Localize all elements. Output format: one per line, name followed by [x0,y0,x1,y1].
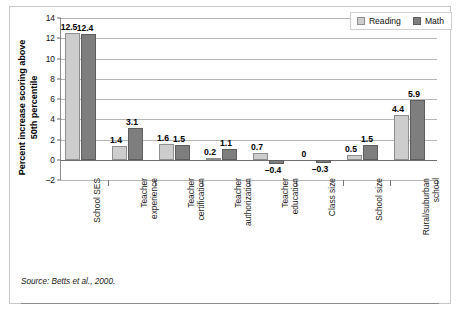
bar-math[interactable] [175,145,190,160]
x-axis-label: Teacherexperience [139,178,159,268]
bar-reading[interactable] [394,115,409,160]
legend-label-reading: Reading [369,16,401,26]
bottom-rule-divider [21,303,439,304]
y-tick-label: 2 [50,135,55,145]
bar-reading[interactable] [347,155,362,160]
y-tick-label: 12 [46,33,55,43]
bar-series-container: 12.512.41.43.11.61.50.21.10.7–0.40–0.30.… [61,18,437,180]
x-axis-label: Teachereducation [280,178,300,268]
bar-math[interactable] [222,149,237,160]
bar-value-label: 1.5 [354,134,380,144]
bar-math[interactable] [128,128,143,159]
bar-math[interactable] [81,34,96,160]
bar-group: 4.45.9 [390,18,437,180]
y-tick-label: 14 [46,13,55,23]
x-axis-label-line1: Teacher [186,178,196,208]
bar-group: 0.7–0.4 [249,18,296,180]
x-axis-label-line1: Teacher [280,178,290,208]
y-axis-title-line2: 50th percentile [28,18,40,198]
bar-math[interactable] [363,145,378,160]
bar-reading[interactable] [65,33,80,160]
y-tick-label: 4 [50,114,55,124]
y-tick-label: 8 [50,74,55,84]
bar-value-label: 5.9 [401,89,427,99]
bar-math[interactable] [316,160,331,163]
bar-group: 12.512.4 [61,18,108,180]
bar-group: 0.51.5 [343,18,390,180]
x-axis-label: Teacherauthorization [233,178,253,268]
plot-area: 14121086420–2 12.512.41.43.11.61.50.21.1… [60,18,437,180]
bar-value-label: 0.2 [197,147,223,157]
x-axis-label: School SES [92,178,102,268]
x-axis-label-line1: School SES [92,178,102,223]
bar-value-label: 1.1 [213,138,239,148]
bar-math[interactable] [269,160,284,164]
figure: Percent increase scoring above 50th perc… [0,0,460,316]
category-tick [108,180,109,186]
x-axis-label-line1: Rural/suburban [421,178,431,235]
bar-value-label: 0.7 [244,142,270,152]
x-axis-category-labels: School SESTeacherexperienceTeachercertif… [60,190,436,268]
bar-value-label: 1.5 [166,134,192,144]
x-axis-label-line1: Class size [327,178,337,216]
bar-reading[interactable] [112,146,127,160]
x-axis-label-line2: experience [149,178,159,268]
bar-group: 1.61.5 [155,18,202,180]
x-axis-label: Class size [327,178,337,268]
x-axis-label-line2: school [431,178,441,268]
x-axis-label: Teachercertification [186,178,206,268]
legend-item-math[interactable]: Math [413,16,444,26]
category-tick [390,180,391,186]
legend: Reading Math [350,12,452,30]
bar-value-label: –0.3 [307,164,333,174]
x-axis-label-line2: authorization [243,178,253,268]
y-axis-title: Percent increase scoring above 50th perc… [17,18,40,198]
y-axis-title-line1: Percent increase scoring above [17,40,27,175]
category-tick [343,180,344,186]
bar-value-label: 4.4 [385,104,411,114]
y-tick-label: 6 [50,94,55,104]
bar-value-label: 1.4 [103,135,129,145]
bar-reading[interactable] [206,158,221,160]
source-note: Source: Betts et al., 2000. [21,277,115,286]
x-axis-label-line2: education [290,178,300,268]
y-tick-label: –2 [46,175,55,185]
bar-value-label: 12.4 [72,23,98,33]
x-axis-label: School size [374,178,384,268]
x-axis-label-line1: Teacher [139,178,149,208]
bar-group: 1.43.1 [108,18,155,180]
x-axis-label-line2: certification [196,178,206,268]
math-swatch-icon [413,17,421,25]
legend-label-math: Math [425,16,444,26]
bar-value-label: 0 [291,149,317,159]
bar-value-label: 0.5 [338,144,364,154]
legend-item-reading[interactable]: Reading [357,16,401,26]
x-axis-label: Rural/suburbanschool [421,178,441,268]
x-axis-label-line1: School size [374,178,384,221]
reading-swatch-icon [357,17,365,25]
x-axis-label-line1: Teacher [233,178,243,208]
bar-value-label: –0.4 [260,165,286,175]
bar-math[interactable] [410,100,425,160]
bar-reading[interactable] [159,144,174,160]
bar-reading[interactable] [253,153,268,160]
y-tick-label: 10 [46,54,55,64]
bar-value-label: 3.1 [119,117,145,127]
bar-group: 0–0.3 [296,18,343,180]
y-tick-label: 0 [50,155,55,165]
bar-group: 0.21.1 [202,18,249,180]
